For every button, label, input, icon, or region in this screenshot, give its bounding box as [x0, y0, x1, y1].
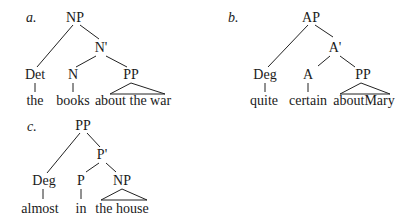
- tree-a-label: a.: [26, 10, 37, 25]
- edge: [315, 25, 333, 37]
- tree-b-bar: A': [329, 40, 342, 55]
- edge: [86, 163, 99, 172]
- edge: [76, 56, 96, 67]
- tree-b-leaf-head: certain: [289, 93, 327, 108]
- tree-a-comp: PP: [123, 67, 139, 82]
- edge: [37, 25, 73, 67]
- tree-a-spec: Det: [25, 67, 45, 82]
- tree-b-root: AP: [302, 10, 320, 25]
- edge: [47, 133, 80, 173]
- tree-b-leaf-spec: quite: [250, 93, 278, 108]
- tree-b: b. AP A' Deg A PP quite certain aboutMar…: [228, 10, 395, 108]
- edge: [340, 56, 355, 67]
- tree-a-bar: N': [95, 40, 108, 55]
- syntax-trees-diagram: a. NP N' Det N PP the books about the wa…: [0, 0, 412, 219]
- tree-a-leaf-comp: about the war: [95, 93, 172, 108]
- edge: [106, 56, 127, 67]
- tree-a: a. NP N' Det N PP the books about the wa…: [25, 10, 172, 108]
- tree-c-bar: P': [97, 147, 107, 162]
- tree-c-leaf-comp: the house: [95, 201, 148, 216]
- tree-b-spec: Deg: [253, 67, 276, 82]
- tree-a-root: NP: [66, 10, 84, 25]
- tree-c-label: c.: [27, 119, 37, 134]
- edge: [268, 25, 308, 67]
- tree-a-head: N: [68, 67, 78, 82]
- tree-a-leaf-spec: the: [26, 93, 43, 108]
- edge: [87, 133, 100, 147]
- tree-c-head: P: [77, 173, 85, 188]
- tree-c-leaf-spec: almost: [21, 201, 58, 216]
- triangle: [101, 189, 147, 200]
- tree-b-leaf-comp: aboutMary: [333, 93, 394, 108]
- edge: [106, 163, 116, 172]
- tree-c-root: PP: [75, 118, 91, 133]
- tree-a-leaf-head: books: [56, 93, 89, 108]
- edge: [318, 56, 330, 66]
- tree-b-comp: PP: [355, 67, 371, 82]
- edge: [80, 25, 99, 39]
- tree-c-spec: Deg: [32, 173, 55, 188]
- tree-c-leaf-head: in: [76, 201, 87, 216]
- tree-b-head: A: [303, 67, 314, 82]
- tree-c: c. PP P' Deg P NP almost in the house: [21, 118, 148, 216]
- tree-c-comp: NP: [113, 173, 131, 188]
- tree-b-label: b.: [228, 10, 239, 25]
